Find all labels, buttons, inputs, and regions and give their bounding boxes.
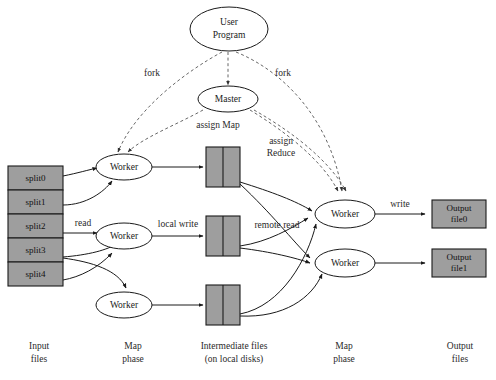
input-split-label: split4 bbox=[25, 269, 46, 279]
mapreduce-execution-overview-diagram: split0 split1 split2 split3 split4 Outpu… bbox=[0, 0, 496, 380]
remote-read-edges-group bbox=[240, 182, 322, 316]
write-edges-group bbox=[374, 214, 425, 263]
user-program-label: User bbox=[220, 17, 239, 27]
read-label: read bbox=[75, 218, 92, 228]
output-file-label: file0 bbox=[451, 214, 468, 224]
phase-label-input-files: Input bbox=[29, 341, 49, 351]
master-label: Master bbox=[215, 94, 242, 104]
input-files-stack: split0 split1 split2 split3 split4 bbox=[8, 166, 63, 286]
split0-to-worker1-edge bbox=[63, 168, 97, 176]
input-split-label: split1 bbox=[25, 197, 45, 207]
phase-label-reduce-phase: Map bbox=[335, 341, 353, 351]
phase-label-intermediate-files: (on local disks) bbox=[205, 354, 264, 365]
reduce-worker-label: Worker bbox=[331, 209, 360, 219]
reduce-worker-node[interactable]: Worker bbox=[315, 200, 375, 228]
map-worker-label: Worker bbox=[110, 162, 139, 172]
assign-map-label: assign Map bbox=[196, 120, 240, 130]
phase-label-input-files: files bbox=[31, 354, 48, 364]
assign-reduce-label: Reduce bbox=[267, 148, 296, 158]
phase-label-map-phase: Map bbox=[124, 341, 142, 351]
intermediate3-to-reduce2-edge bbox=[240, 274, 322, 316]
map-worker-node[interactable]: Worker bbox=[96, 292, 152, 318]
intermediate-files-group bbox=[206, 147, 240, 325]
phase-label-intermediate-files: Intermediate files bbox=[201, 341, 268, 351]
output-file-label: file1 bbox=[451, 263, 468, 273]
user-program-node[interactable]: User Program bbox=[190, 7, 268, 51]
phase-label-map-phase: phase bbox=[122, 354, 144, 364]
assign-map-edge bbox=[128, 110, 203, 152]
input-split-label: split3 bbox=[25, 245, 46, 255]
map-worker-node[interactable]: Worker bbox=[96, 223, 152, 249]
map-worker-label: Worker bbox=[110, 231, 139, 241]
user-program-ellipse[interactable] bbox=[190, 7, 268, 51]
remote-read-label: remote read bbox=[254, 220, 299, 230]
output-file-label: Output bbox=[446, 203, 472, 213]
input-split-label: split0 bbox=[25, 173, 46, 183]
input-split-label: split2 bbox=[25, 221, 45, 231]
map-worker-node[interactable]: Worker bbox=[96, 154, 152, 180]
local-write-edges-group bbox=[152, 167, 203, 305]
map-worker-label: Worker bbox=[110, 300, 139, 310]
intermediate1-to-reduce1-edge bbox=[240, 182, 312, 211]
diagram-canvas: split0 split1 split2 split3 split4 Outpu… bbox=[0, 0, 496, 380]
user-program-label: Program bbox=[213, 30, 246, 40]
assign-reduce-label: assign bbox=[269, 136, 293, 146]
reduce-worker-node[interactable]: Worker bbox=[315, 249, 375, 277]
fork-left-label: fork bbox=[144, 68, 160, 78]
split3-to-worker3-edge bbox=[63, 258, 126, 288]
split1-to-worker1-edge bbox=[63, 181, 112, 205]
master-node[interactable]: Master bbox=[198, 86, 258, 112]
fork-right-label: fork bbox=[275, 68, 291, 78]
output-files-group: Output file0 Output file1 bbox=[432, 200, 486, 277]
intermediate2-to-reduce2-edge bbox=[240, 248, 310, 263]
phase-labels-group: Input files Map phase Intermediate files… bbox=[29, 341, 474, 365]
output-file-label: Output bbox=[446, 252, 472, 262]
phase-label-output-files: files bbox=[452, 354, 469, 364]
local-write-label: local write bbox=[158, 219, 198, 229]
intermediate3-to-reduce1-edge bbox=[240, 224, 316, 314]
phase-label-output-files: Output bbox=[447, 341, 474, 351]
phase-label-reduce-phase: phase bbox=[333, 354, 355, 364]
write-label: write bbox=[390, 199, 410, 209]
reduce-worker-label: Worker bbox=[331, 258, 360, 268]
split4-to-worker3-edge bbox=[63, 253, 112, 280]
